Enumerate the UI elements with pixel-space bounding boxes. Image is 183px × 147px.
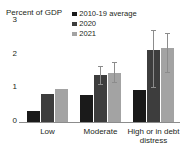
chart-container: Grants and concessional loans Percent of… <box>0 0 183 147</box>
bar-item <box>27 111 40 122</box>
error-bar-cap-lower <box>151 87 156 88</box>
bar <box>41 94 54 122</box>
y-tick-label-0: 0 <box>1 117 17 125</box>
error-bar-cap-upper <box>98 66 103 67</box>
error-bar <box>100 67 101 85</box>
bar-item <box>133 90 146 122</box>
error-bar-cap-upper <box>112 62 117 63</box>
y-tick-label-1: 1 <box>1 83 17 91</box>
bar-item <box>41 94 54 122</box>
y-tick-label-3: 3 <box>1 16 17 24</box>
bar-item <box>94 75 107 122</box>
bar-group <box>27 89 68 122</box>
bar <box>133 90 146 122</box>
bar-group <box>133 48 174 122</box>
error-bar <box>153 31 154 88</box>
legend-swatch-2010-19-average <box>72 12 77 17</box>
bar <box>55 89 68 122</box>
error-bar <box>167 34 168 73</box>
legend-item: 2010-19 average <box>72 10 137 18</box>
bar-group <box>80 73 121 122</box>
bar <box>27 111 40 122</box>
error-bar-cap-upper <box>165 33 170 34</box>
error-bar-cap-lower <box>98 84 103 85</box>
x-axis-label: High or in debt distress <box>119 127 183 146</box>
plot-area <box>21 21 180 122</box>
legend-label: 2010-19 average <box>79 10 136 18</box>
bar-item <box>108 73 121 122</box>
error-bar-cap-upper <box>151 30 156 31</box>
error-bar <box>114 63 115 83</box>
bar-item <box>80 95 93 122</box>
bar-item <box>55 89 68 122</box>
y-tick-label-2: 2 <box>1 50 17 58</box>
error-bar-cap-lower <box>165 72 170 73</box>
bar-item <box>161 48 174 122</box>
bar-item <box>147 50 160 122</box>
bar <box>80 95 93 122</box>
error-bar-cap-lower <box>112 82 117 83</box>
